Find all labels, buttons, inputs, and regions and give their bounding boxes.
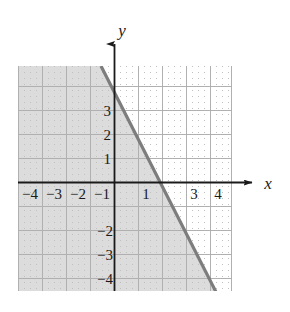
- y-tick-label-neg2: −2: [97, 223, 113, 239]
- x-tick-label-neg2: −2: [70, 186, 86, 202]
- y-axis-label: y: [116, 21, 126, 40]
- y-tick-label-neg3: −3: [97, 247, 113, 263]
- x-tick-label-neg4: −4: [22, 186, 38, 202]
- x-tick-label-3: 3: [190, 186, 198, 202]
- coordinate-plane-figure: x y −4 −3 −2 −1 1 3 4 3 2 1 −2 −3 −4: [0, 0, 290, 312]
- y-tick-label-2: 2: [104, 127, 112, 143]
- x-tick-label-1: 1: [142, 186, 150, 202]
- x-tick-label-4: 4: [214, 186, 222, 202]
- y-tick-label-3: 3: [104, 103, 112, 119]
- y-tick-label-neg4: −4: [97, 271, 113, 287]
- x-tick-label-neg1: −1: [94, 186, 110, 202]
- x-tick-label-neg3: −3: [46, 186, 62, 202]
- x-axis-label: x: [263, 174, 272, 193]
- y-tick-label-1: 1: [104, 151, 112, 167]
- graph-canvas: x y −4 −3 −2 −1 1 3 4 3 2 1 −2 −3 −4: [0, 0, 290, 312]
